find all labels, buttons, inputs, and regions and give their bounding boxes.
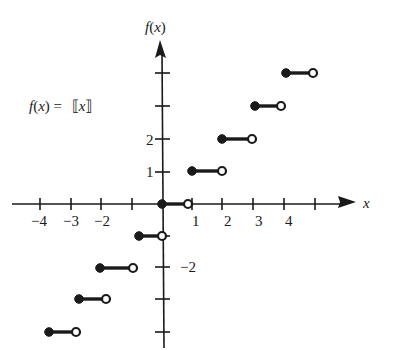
step-segment <box>96 264 137 273</box>
x-tick-label: 3 <box>255 213 263 229</box>
x-tick-label: 2 <box>224 213 232 229</box>
open-endpoint-icon <box>277 102 285 110</box>
x-axis-arrow-icon <box>338 196 356 208</box>
closed-endpoint-icon <box>158 200 167 209</box>
y-tick-label: −2 <box>180 259 196 275</box>
open-endpoint-icon <box>184 200 192 208</box>
open-endpoint-icon <box>309 69 317 77</box>
open-endpoint-icon <box>129 264 137 272</box>
x-tick-label: −3 <box>63 213 79 229</box>
step-segment <box>158 200 192 209</box>
closed-endpoint-icon <box>251 102 260 111</box>
x-tick-label: 1 <box>192 213 200 229</box>
x-tick-label: −4 <box>31 213 47 229</box>
step-segment <box>282 69 317 78</box>
open-endpoint-icon <box>158 232 166 240</box>
open-endpoint-icon <box>218 167 226 175</box>
step-segment <box>251 102 285 111</box>
closed-endpoint-icon <box>188 167 197 176</box>
open-endpoint-icon <box>248 135 256 143</box>
x-tick-label: 4 <box>285 213 293 229</box>
closed-endpoint-icon <box>96 264 105 273</box>
y-tick-label: 2 <box>146 132 154 148</box>
x-axis-label: x <box>362 195 370 211</box>
step-segment <box>75 295 110 304</box>
x-tick-label: −2 <box>94 213 110 229</box>
closed-endpoint-icon <box>282 69 291 78</box>
x-axis-tick-labels: −4−3−21234 <box>31 213 293 229</box>
step-segment <box>135 232 166 241</box>
chart-canvas: x f(x) −4−3−21234 21−2 f(x) = ⟦x⟧ <box>0 0 406 351</box>
y-tick-label: 1 <box>146 164 154 180</box>
step-function-chart: x f(x) −4−3−21234 21−2 f(x) = ⟦x⟧ <box>0 0 406 351</box>
step-segment <box>188 167 226 176</box>
closed-endpoint-icon <box>45 328 54 337</box>
step-segment <box>218 135 256 144</box>
open-endpoint-icon <box>72 328 80 336</box>
step-segment <box>45 328 80 337</box>
closed-endpoint-icon <box>135 232 144 241</box>
closed-endpoint-icon <box>218 135 227 144</box>
closed-endpoint-icon <box>75 295 84 304</box>
y-axis-label: f(x) <box>145 19 166 36</box>
function-label: f(x) = ⟦x⟧ <box>29 98 92 115</box>
y-axis-arrow-icon <box>155 40 166 58</box>
open-endpoint-icon <box>102 295 110 303</box>
